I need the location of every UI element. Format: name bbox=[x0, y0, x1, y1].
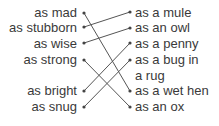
right-label: a rug bbox=[135, 68, 165, 83]
left-dot bbox=[82, 25, 85, 28]
left-label: as mad bbox=[34, 5, 77, 20]
right-label: as a wet hen bbox=[135, 83, 209, 98]
right-label: as a mule bbox=[135, 5, 191, 20]
right-label: as a penny bbox=[135, 36, 199, 51]
left-dot bbox=[82, 11, 85, 14]
right-dot bbox=[128, 105, 131, 108]
right-label: as an ox bbox=[135, 99, 184, 114]
line-wise-owl bbox=[84, 28, 130, 43]
right-dot bbox=[128, 58, 131, 61]
left-label: as snug bbox=[31, 99, 77, 114]
left-label: as strong bbox=[24, 52, 77, 67]
right-dot bbox=[128, 10, 131, 13]
left-label: as stubborn bbox=[9, 20, 77, 35]
right-label: as an owl bbox=[135, 20, 190, 35]
left-label: as wise bbox=[34, 36, 77, 51]
left-label: as bright bbox=[27, 83, 77, 98]
left-dot bbox=[82, 105, 85, 108]
left-dot bbox=[82, 58, 85, 61]
right-dot bbox=[128, 41, 131, 44]
line-stubborn-mule bbox=[84, 12, 130, 27]
right-label: as a bug in bbox=[135, 52, 199, 67]
right-dot bbox=[128, 26, 131, 29]
left-dot bbox=[82, 89, 85, 92]
right-dot bbox=[128, 89, 131, 92]
left-dot bbox=[82, 41, 85, 44]
